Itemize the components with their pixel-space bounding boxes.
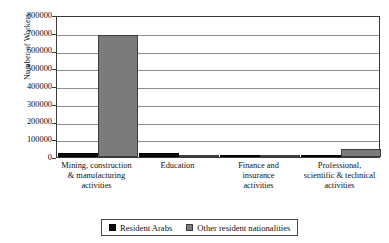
x-axis-category-label: Finance andinsuranceactivities <box>214 161 303 192</box>
bar-resident-arabs <box>58 153 98 157</box>
bar-chart-figure: Number of Workers 8000007000006000005000… <box>0 0 389 243</box>
y-axis-tick-label: 800000 <box>0 12 52 20</box>
y-axis-tick-label: 0 <box>0 154 52 162</box>
bar-resident-arabs <box>301 155 341 157</box>
chart-legend: Resident ArabsOther resident nationaliti… <box>101 219 298 236</box>
legend-item: Other resident nationalities <box>186 223 290 233</box>
x-axis-category-label-line: Professional, <box>295 161 384 171</box>
y-axis-tick-label: 400000 <box>0 83 52 91</box>
x-axis-category-label: Professional,scientific & technicalactiv… <box>295 161 384 192</box>
legend-item-label: Resident Arabs <box>120 223 172 233</box>
bar-resident-arabs <box>139 153 179 157</box>
bar-other-resident-nationalities <box>260 155 300 157</box>
x-axis-category-label-line: Education <box>133 161 222 171</box>
y-axis-tick-mark <box>52 158 56 159</box>
y-axis-tick-label: 600000 <box>0 47 52 55</box>
x-axis-category-label: Education <box>133 161 222 171</box>
x-axis-category-label-line: insurance <box>214 171 303 181</box>
x-axis-category-label-line: activities <box>52 181 141 191</box>
legend-item-label: Other resident nationalities <box>197 223 290 233</box>
y-axis-tick-label: 700000 <box>0 30 52 38</box>
y-axis-tick-label: 200000 <box>0 118 52 126</box>
x-axis-category-label-line: & manufacturing <box>52 171 141 181</box>
x-axis-category-label: Mining, construction& manufacturingactiv… <box>52 161 141 192</box>
bar-other-resident-nationalities <box>341 149 381 157</box>
x-axis-category-label-line: activities <box>214 181 303 191</box>
y-axis-tick-label: 500000 <box>0 65 52 73</box>
bar-other-resident-nationalities <box>98 35 138 157</box>
plot-area <box>56 16 380 158</box>
legend-item: Resident Arabs <box>109 223 172 233</box>
x-axis-category-label-line: activities <box>295 181 384 191</box>
bar-other-resident-nationalities <box>179 155 219 157</box>
gray-square-swatch <box>186 224 193 231</box>
x-axis-category-label-line: scientific & technical <box>295 171 384 181</box>
y-axis-tick-label: 300000 <box>0 101 52 109</box>
plot-inner <box>57 17 379 157</box>
bar-resident-arabs <box>220 155 260 157</box>
x-axis-category-label-line: Finance and <box>214 161 303 171</box>
black-square-swatch <box>109 224 116 231</box>
y-axis-tick-label: 100000 <box>0 136 52 144</box>
x-axis-category-label-line: Mining, construction <box>52 161 141 171</box>
